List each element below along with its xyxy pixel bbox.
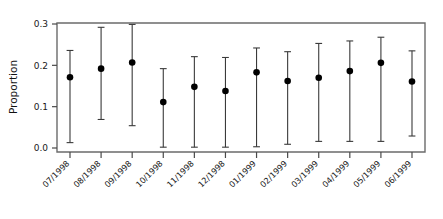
data-point-marker xyxy=(67,74,74,81)
data-point-marker xyxy=(129,59,136,66)
data-point-marker xyxy=(378,60,385,67)
data-point-marker xyxy=(315,74,322,81)
chart-canvas: 0.00.10.20.3 Proportion 07/199808/199809… xyxy=(0,0,443,219)
y-tick-label: 0.1 xyxy=(34,102,48,112)
data-point-marker xyxy=(409,78,416,85)
y-tick-label: 0.0 xyxy=(34,143,49,153)
chart-background xyxy=(0,0,443,219)
proportion-error-bar-chart: 0.00.10.20.3 Proportion 07/199808/199809… xyxy=(0,0,443,219)
data-point-marker xyxy=(347,68,354,75)
y-tick-label: 0.3 xyxy=(34,19,48,29)
data-point-marker xyxy=(253,69,260,76)
data-point-marker xyxy=(284,78,291,85)
y-axis-label-text: Proportion xyxy=(7,60,19,114)
data-point-marker xyxy=(222,88,229,95)
data-point-marker xyxy=(160,99,167,106)
y-axis-title: Proportion xyxy=(7,60,19,114)
data-point-marker xyxy=(98,65,105,72)
data-point-marker xyxy=(191,84,198,91)
y-tick-label: 0.2 xyxy=(34,61,48,71)
